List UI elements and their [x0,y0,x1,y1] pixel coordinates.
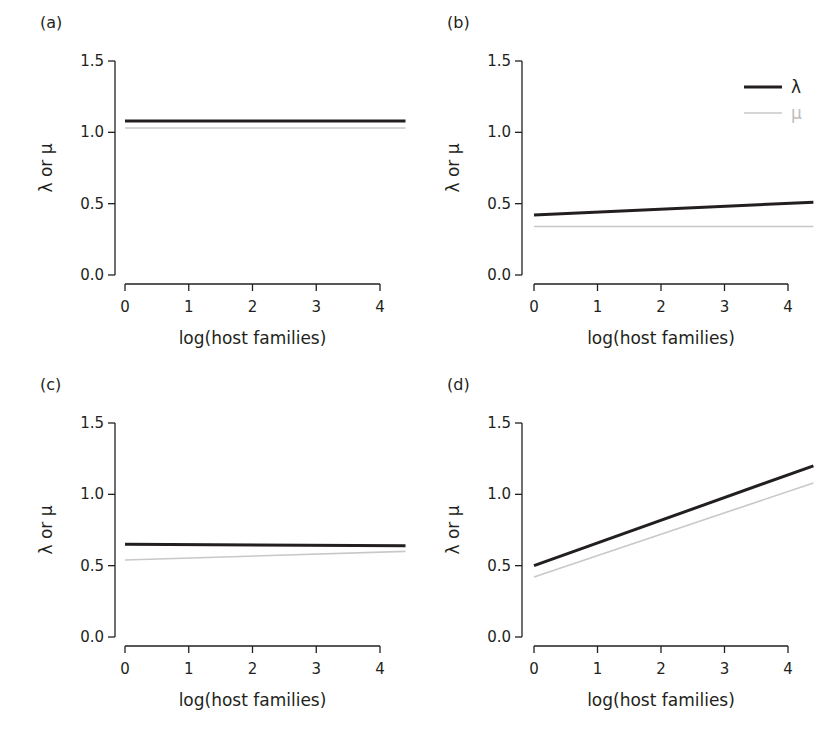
y-tick-label: 0.0 [80,266,104,284]
y-tick-label: 0.0 [80,628,104,646]
x-axis-title: log(host families) [179,690,327,710]
panel-label: (d) [447,375,470,394]
y-tick-label: 1.5 [487,52,511,70]
panel-b: (b)0.00.51.01.5λ or μ01234log(host famil… [443,13,813,348]
x-axis-title: log(host families) [179,328,327,348]
y-tick-label: 1.0 [80,485,104,503]
y-tick-label: 1.5 [487,414,511,432]
legend-lambda-label: λ [791,77,801,97]
legend-mu-label: μ [791,103,802,123]
y-tick-label: 0.5 [80,195,104,213]
y-axis-title: λ or μ [36,143,56,192]
x-tick-label: 3 [311,660,321,678]
legend: λμ [744,77,802,123]
x-tick-label: 3 [720,660,730,678]
x-tick-label: 1 [184,298,194,316]
panel-label: (b) [447,13,470,32]
figure: (a)0.00.51.01.5λ or μ01234log(host famil… [0,0,840,745]
y-tick-label: 1.0 [487,123,511,141]
x-tick-label: 4 [783,660,793,678]
y-tick-label: 1.5 [80,414,104,432]
x-axis-title: log(host families) [587,690,735,710]
x-tick-label: 3 [311,298,321,316]
panel-c: (c)0.00.51.01.5λ or μ01234log(host famil… [36,375,406,710]
y-tick-label: 0.0 [487,628,511,646]
y-tick-label: 1.0 [80,123,104,141]
x-tick-label: 4 [783,298,793,316]
x-axis-title: log(host families) [587,328,735,348]
y-tick-label: 0.5 [487,557,511,575]
x-tick-label: 2 [248,660,258,678]
y-axis-title: λ or μ [443,505,463,554]
y-tick-label: 0.5 [80,557,104,575]
x-tick-label: 1 [593,660,603,678]
panel-label: (a) [40,13,62,32]
x-tick-label: 0 [529,660,539,678]
mu-line [534,483,813,577]
y-tick-label: 0.0 [487,266,511,284]
x-tick-label: 2 [248,298,258,316]
x-tick-label: 0 [529,298,539,316]
x-tick-label: 2 [656,298,666,316]
y-axis-title: λ or μ [36,505,56,554]
y-axis-title: λ or μ [443,143,463,192]
y-tick-label: 0.5 [487,195,511,213]
panel-label: (c) [40,375,61,394]
y-tick-label: 1.5 [80,52,104,70]
x-tick-label: 4 [375,660,385,678]
mu-line [125,551,406,560]
lambda-line [534,202,813,215]
panel-d: (d)0.00.51.01.5λ or μ01234log(host famil… [443,375,813,710]
x-tick-label: 4 [375,298,385,316]
y-tick-label: 1.0 [487,485,511,503]
lambda-line [125,544,406,545]
x-tick-label: 3 [720,298,730,316]
lambda-line [534,466,813,566]
panel-a: (a)0.00.51.01.5λ or μ01234log(host famil… [36,13,406,348]
x-tick-label: 1 [184,660,194,678]
x-tick-label: 0 [120,298,130,316]
x-tick-label: 2 [656,660,666,678]
x-tick-label: 0 [120,660,130,678]
x-tick-label: 1 [593,298,603,316]
